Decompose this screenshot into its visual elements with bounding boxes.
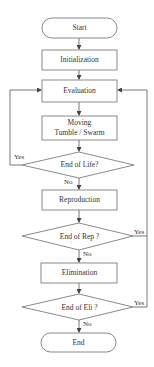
- flowchart: Start Initialization Evaluation Moving T…: [0, 0, 154, 367]
- initialization-process: Initialization: [42, 50, 117, 70]
- eli-no-label: No: [83, 320, 92, 328]
- moving-label-line2: Tumble / Swarm: [54, 128, 104, 137]
- end-of-eli-label: End of Eli ?: [61, 303, 98, 312]
- eli-yes-label: Yes: [134, 299, 144, 307]
- rep-yes-label: Yes: [134, 228, 144, 236]
- life-no-label: No: [64, 178, 73, 186]
- reproduction-label: Reproduction: [59, 195, 100, 204]
- initialization-label: Initialization: [60, 55, 99, 64]
- rep-no-label: No: [83, 250, 92, 258]
- end-terminal: End: [41, 333, 116, 352]
- elimination-label: Elimination: [62, 268, 98, 277]
- end-label: End: [72, 338, 84, 347]
- reproduction-process: Reproduction: [42, 190, 117, 210]
- loop-eli-yes: [118, 90, 147, 307]
- end-of-rep-label: End of Rep ?: [60, 232, 100, 241]
- moving-process: Moving Tumble / Swarm: [42, 116, 117, 140]
- evaluation-process: Evaluation: [42, 80, 117, 102]
- evaluation-label: Evaluation: [63, 86, 96, 95]
- end-of-life-label: End of Life?: [61, 160, 100, 169]
- end-of-eli-decision: End of Eli ?: [22, 294, 133, 320]
- moving-label-line1: Moving: [68, 118, 92, 127]
- elimination-process: Elimination: [41, 263, 117, 283]
- start-label: Start: [72, 23, 87, 32]
- end-of-life-decision: End of Life?: [22, 152, 134, 178]
- life-yes-label: Yes: [14, 153, 24, 161]
- end-of-rep-decision: End of Rep ?: [22, 223, 133, 250]
- start-terminal: Start: [42, 18, 117, 38]
